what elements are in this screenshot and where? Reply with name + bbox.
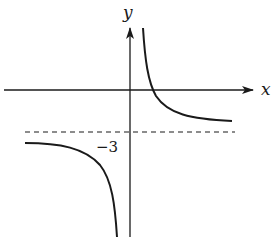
graph-canvas: x y −3 [0, 0, 277, 239]
curve-right-branch [143, 28, 232, 121]
asymptote-value-label: −3 [96, 138, 118, 156]
x-axis-label: x [261, 79, 271, 99]
y-axis-label: y [122, 2, 133, 22]
curve-left-branch [25, 143, 117, 237]
